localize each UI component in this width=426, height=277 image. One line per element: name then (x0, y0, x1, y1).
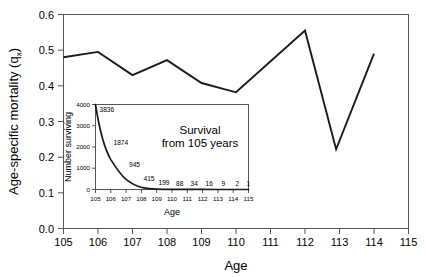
inset-x-tick-label: 108 (136, 195, 147, 202)
main-x-tick-label: 114 (365, 236, 383, 248)
inset-x-tick-labels: 105 106 107 108 109 110 111 112 113 114 … (90, 195, 254, 202)
main-y-tick-label: 0.6 (39, 9, 54, 21)
main-y-tick-label: 0.4 (39, 80, 54, 92)
main-x-tick-label: 109 (192, 236, 210, 248)
inset-y-tick-label: 2000 (76, 143, 90, 150)
main-x-tick-label: 106 (89, 236, 107, 248)
main-x-tick-label: 113 (331, 236, 349, 248)
figure-container: 0.6 0.5 0.4 0.3 0.2 0.1 0.0 105 106 107 (0, 0, 426, 277)
inset-x-tick-label: 115 (244, 195, 254, 202)
main-x-tick-label: 107 (123, 236, 141, 248)
inset-point-label: 415 (144, 175, 155, 182)
main-y-tick-label: 0.2 (39, 151, 54, 163)
main-x-tick-label: 110 (227, 236, 245, 248)
svg-text:Age-specific mortality (qx): Age-specific mortality (qx) (6, 48, 23, 195)
inset-x-axis-title: Age (164, 207, 180, 217)
inset-x-tick-label: 114 (228, 195, 238, 202)
inset-point-label: 88 (176, 180, 184, 187)
inset-point-label: 199 (159, 179, 170, 186)
inset-x-tick-label: 112 (198, 195, 208, 202)
inset-point-label: 16 (206, 180, 214, 187)
main-x-tick-label: 105 (54, 236, 72, 248)
inset-y-tick-label: 0 (87, 186, 91, 193)
main-y-axis-title: Age-specific mortality (qx) (6, 48, 23, 195)
main-x-tick-label: 108 (158, 236, 176, 248)
inset-y-tick-label: 3000 (76, 122, 90, 129)
main-x-tick-label: 115 (400, 236, 418, 248)
inset-point-label: 2 (236, 180, 240, 187)
main-y-tick-label: 0.3 (39, 116, 54, 128)
main-x-tick-label: 111 (262, 236, 279, 248)
main-y-axis-title-text: Age-specific mortality (q (6, 56, 21, 195)
inset-y-tick-label: 1000 (76, 164, 90, 171)
inset-x-tick-label: 110 (167, 195, 177, 202)
inset-point-label: 9 (222, 180, 226, 187)
main-x-axis-title: Age (224, 258, 247, 273)
inset-x-tick-label: 109 (152, 195, 163, 202)
main-y-tick-label: 0.0 (39, 223, 54, 235)
inset-point-label: 34 (191, 180, 199, 187)
main-y-tick-label: 0.5 (39, 44, 54, 56)
inset-y-axis-title: Number surviving (63, 112, 73, 182)
inset-point-label: 1874 (114, 139, 129, 146)
inset-x-tick-label: 106 (106, 195, 117, 202)
inset-x-tick-label: 113 (213, 195, 223, 202)
inset-x-tick-label: 107 (121, 195, 132, 202)
inset-point-label: 3836 (100, 106, 115, 113)
inset-y-tick-label: 4000 (76, 101, 90, 108)
inset-caption-line-1: Survival (180, 124, 221, 136)
mortality-figure-svg: 0.6 0.5 0.4 0.3 0.2 0.1 0.0 105 106 107 (0, 0, 426, 277)
main-y-axis-title-tail: ) (6, 48, 21, 52)
main-x-tick-label: 112 (296, 236, 314, 248)
inset-caption-line-2: from 105 years (162, 137, 239, 149)
inset-point-label: 945 (129, 161, 140, 168)
inset-y-axis-title-text: Number surviving (63, 112, 73, 182)
main-y-tick-label: 0.1 (39, 187, 54, 199)
inset-x-tick-label: 111 (183, 195, 193, 202)
inset-point-label: 1 (247, 180, 251, 187)
inset-x-tick-label: 105 (90, 195, 101, 202)
